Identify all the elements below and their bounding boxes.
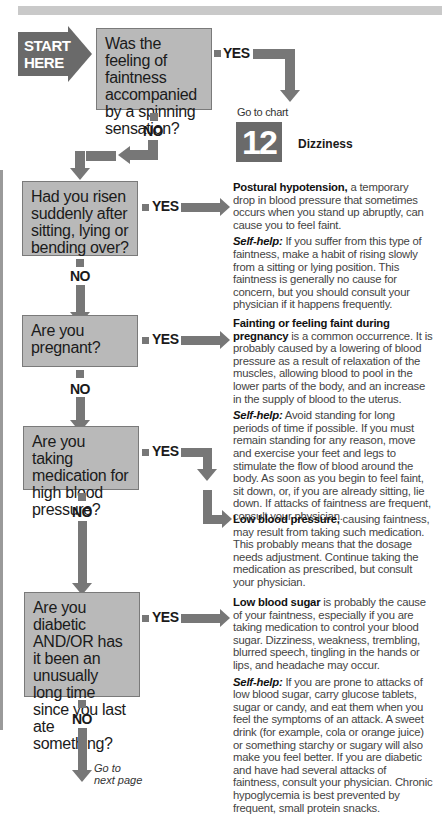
arrow-left-icon [118, 146, 130, 164]
no-marker [78, 700, 86, 708]
answer-title: Low blood pressure, [233, 513, 340, 525]
question-box-risen: Had you risen suddenly after sitting, ly… [22, 181, 138, 256]
answer-title: Low blood sugar [233, 596, 320, 608]
yes-label: YES [152, 198, 179, 214]
connector [181, 336, 221, 345]
start-here-arrow: START HERE [18, 26, 90, 78]
yes-marker [142, 337, 149, 344]
yes-marker [142, 449, 149, 456]
no-marker [76, 259, 84, 267]
connector [181, 203, 221, 212]
selfhelp-text: Avoid standing for long periods of time … [233, 409, 431, 522]
goto-chart-label: Go to chart [237, 106, 288, 118]
no-marker [76, 370, 84, 378]
question-box-spinning: Was the feeling of faintness accompanied… [96, 28, 212, 110]
yes-label: YES [223, 45, 250, 61]
answer-low-blood-sugar: Low blood sugar is probably the cause of… [233, 596, 433, 818]
connector [203, 515, 223, 524]
yes-marker [142, 615, 149, 622]
yes-label: YES [152, 331, 179, 347]
connector [78, 521, 87, 586]
question-text: Are you pregnant? [31, 322, 100, 356]
start-label-line2: HERE [24, 54, 70, 71]
connector [203, 448, 212, 470]
no-marker [150, 113, 158, 121]
answer-title: Postural hypotension, [233, 181, 347, 193]
yes-label: YES [152, 609, 179, 625]
question-box-medication: Are you taking medication for high blood… [23, 426, 139, 490]
start-label-line1: START [24, 37, 70, 54]
arrow-right-icon [222, 510, 232, 528]
question-box-diabetic: Are you diabetic AND/OR has it been an u… [24, 592, 140, 697]
connector [76, 285, 85, 315]
answer-postural-hypotension: Postural hypotension, a temporary drop i… [233, 181, 433, 315]
arrow-down-icon [72, 770, 92, 782]
yes-marker [142, 204, 149, 211]
no-label: NO [72, 711, 92, 727]
question-text: Was the feeling of faintness accompanied… [105, 35, 197, 137]
no-label: NO [70, 381, 90, 397]
selfhelp-label: Self-help: [233, 409, 282, 421]
next-line2: next page [94, 774, 142, 786]
connector [285, 49, 295, 91]
page-edge-line [0, 170, 3, 730]
arrow-right-icon [220, 198, 230, 216]
answer-low-blood-pressure: Low blood pressure, causing faintness, m… [233, 513, 433, 593]
answer-pregnancy: Fainting or feeling faint during pregnan… [233, 317, 433, 527]
arrow-down-icon [280, 90, 300, 102]
no-marker [78, 493, 86, 501]
header-bar [18, 6, 442, 15]
selfhelp-text: If you are prone to attacks of low blood… [233, 676, 432, 814]
goto-next-page[interactable]: Go to next page [94, 762, 142, 786]
question-box-pregnant: Are you pregnant? [22, 315, 138, 367]
start-arrow-head [68, 26, 92, 82]
yes-label: YES [152, 443, 179, 459]
yes-marker [214, 50, 221, 57]
no-label: NO [72, 504, 92, 520]
no-label: NO [143, 123, 163, 139]
arrow-right-icon [220, 331, 230, 349]
chart-number-badge[interactable]: 12 [236, 122, 282, 162]
arrow-right-icon [220, 609, 230, 627]
question-text: Had you risen suddenly after sitting, ly… [31, 188, 129, 256]
connector [86, 151, 116, 161]
arrow-down-icon [70, 168, 90, 180]
connector [130, 150, 158, 160]
selfhelp-label: Self-help: [233, 235, 282, 247]
selfhelp-label: Self-help: [233, 676, 282, 688]
next-line1: Go to [94, 762, 142, 774]
start-label: START HERE [24, 37, 70, 71]
chart-label-dizziness[interactable]: Dizziness [298, 137, 353, 151]
arrow-down-icon [197, 469, 217, 481]
no-label: NO [70, 268, 90, 284]
connector [78, 728, 87, 772]
connector [181, 614, 221, 623]
